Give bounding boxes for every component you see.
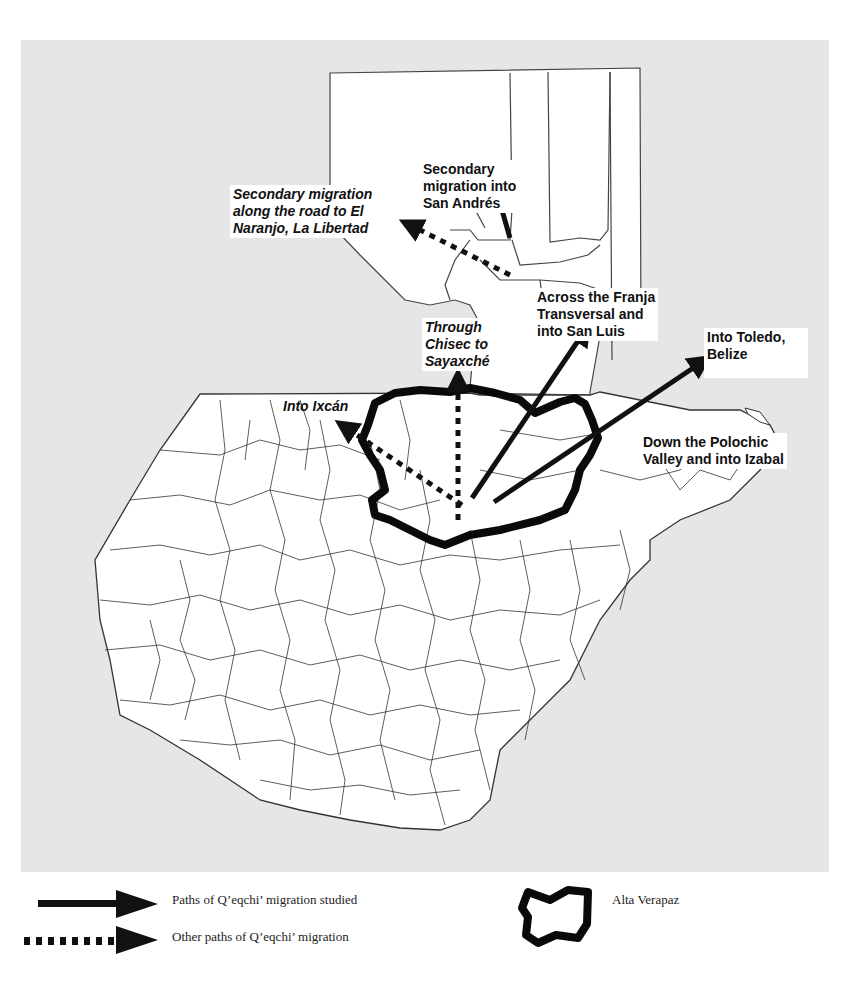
label-franja: Across the Franja Transversal and into S… <box>534 288 658 341</box>
legend-alta-verapaz-outline <box>522 890 588 943</box>
legend-dotted-arrow <box>24 926 158 954</box>
legend-label-other: Other paths of Q’eqchi’ migration <box>172 929 349 945</box>
label-toledo: Into Toledo, Belize <box>704 328 808 378</box>
label-polochic: Down the Polochic Valley and into Izabal <box>640 433 787 469</box>
label-san-andres: Secondary migration into San Andrés <box>420 160 519 213</box>
legend-label-studied: Paths of Q’eqchi’ migration studied <box>172 892 357 908</box>
legend-label-alta-verapaz: Alta Verapaz <box>612 892 679 908</box>
legend: Paths of Q’eqchi’ migration studied Othe… <box>0 880 856 991</box>
label-ixcan: Into Ixcán <box>280 397 351 416</box>
label-chisec: Through Chisec to Sayaxché <box>422 318 493 371</box>
legend-solid-arrow <box>38 890 158 918</box>
label-el-naranjo: Secondary migration along the road to El… <box>230 185 375 238</box>
legend-graphics <box>0 880 856 991</box>
